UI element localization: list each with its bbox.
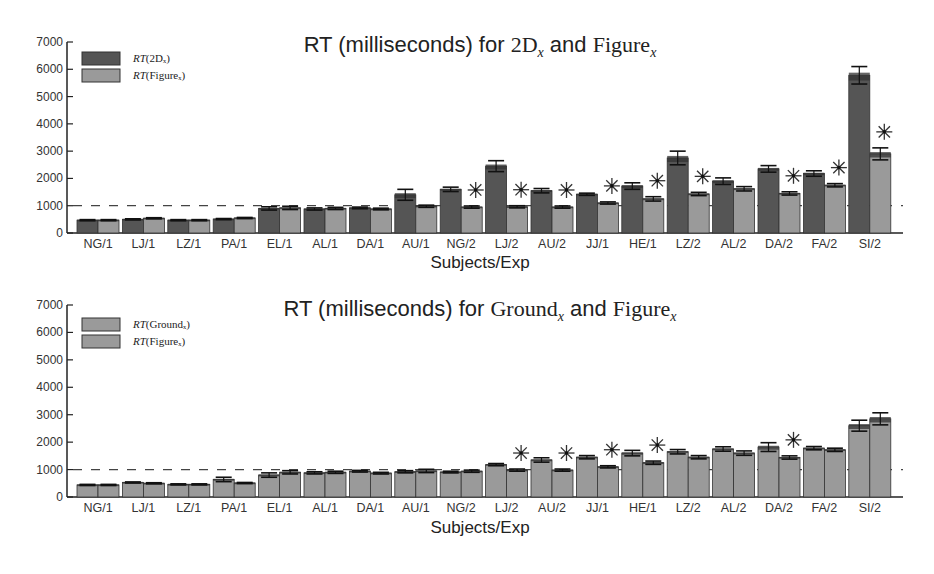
bar: [416, 206, 437, 233]
bar: [824, 450, 845, 497]
bar-group: [486, 464, 528, 497]
x-tick-label: LZ/2: [676, 237, 701, 251]
significance-asterisk-icon: [649, 173, 665, 189]
x-tick-label: LJ/1: [132, 237, 156, 251]
y-tick-label: 2000: [36, 171, 63, 185]
bar: [552, 470, 573, 497]
bar-group: [667, 450, 709, 497]
bar: [280, 472, 301, 497]
y-tick-label: 4000: [36, 117, 63, 131]
chart-title: RT (milliseconds) for Groundx and Figure…: [283, 296, 677, 324]
bar: [416, 471, 437, 497]
bar-group: [849, 67, 891, 233]
significance-asterisk-icon: [604, 442, 620, 458]
bar: [440, 189, 461, 233]
significance-asterisk-icon: [786, 168, 802, 184]
chart-2d-vs-figure: RT (milliseconds) for 2Dx and Figurex010…: [0, 0, 934, 272]
bar-group: [667, 151, 709, 233]
bar: [713, 181, 734, 233]
bar-group: [758, 443, 800, 497]
significance-asterisk-icon: [649, 437, 665, 453]
bar: [597, 203, 618, 233]
bar: [758, 169, 779, 233]
x-tick-label: AU/2: [538, 237, 566, 251]
bar: [461, 471, 482, 497]
significance-asterisk-icon: [604, 178, 620, 194]
bar: [395, 472, 416, 497]
x-tick-label: JJ/1: [586, 237, 609, 251]
y-tick-label: 3000: [36, 144, 63, 158]
bar: [77, 220, 98, 233]
bar-group: [259, 471, 301, 497]
x-tick-label: NG/1: [83, 237, 112, 251]
bar: [486, 166, 507, 233]
significance-asterisk-icon: [559, 445, 575, 461]
significance-asterisk-icon: [695, 168, 711, 184]
bar: [122, 219, 143, 233]
x-tick-label: LJ/2: [495, 501, 519, 515]
bar: [461, 207, 482, 233]
bar-group: [849, 413, 891, 497]
bar: [734, 189, 755, 233]
y-tick-label: 7000: [36, 298, 63, 312]
x-tick-label: JJ/1: [586, 501, 609, 515]
bar-group: [531, 458, 573, 497]
x-tick-label: LZ/1: [176, 501, 201, 515]
x-tick-label: LJ/1: [132, 501, 156, 515]
x-tick-label: NG/2: [447, 501, 476, 515]
chart-ground-vs-figure: RT (milliseconds) for Groundx and Figure…: [0, 264, 934, 574]
bar: [667, 158, 688, 233]
bar: [713, 449, 734, 497]
legend-label: RT(Figureₓ): [132, 69, 185, 82]
bar: [304, 473, 325, 497]
x-tick-label: EL/1: [267, 501, 293, 515]
bar-group: [713, 178, 755, 233]
x-tick-label: LZ/1: [176, 237, 201, 251]
bar: [507, 470, 528, 497]
bar: [259, 208, 280, 233]
bar: [349, 471, 370, 497]
bar: [734, 453, 755, 497]
bar-group: [77, 220, 119, 233]
y-tick-label: 3000: [36, 408, 63, 422]
x-tick-label: AL/2: [721, 237, 747, 251]
bar: [688, 194, 709, 233]
bar: [213, 219, 234, 233]
bar: [325, 208, 346, 233]
y-tick-label: 4000: [36, 380, 63, 394]
bar: [234, 218, 255, 233]
bar: [98, 485, 119, 497]
bar: [370, 209, 391, 233]
y-tick-label: 1000: [36, 463, 63, 477]
bar: [667, 452, 688, 497]
x-tick-label: FA/2: [812, 237, 838, 251]
significance-asterisk-icon: [786, 432, 802, 448]
significance-asterisk-icon: [513, 445, 529, 461]
bar: [576, 194, 597, 233]
chart-title: RT (milliseconds) for 2Dx and Figurex: [304, 32, 658, 60]
legend-swatch: [82, 69, 120, 82]
x-tick-label: SI/2: [859, 237, 881, 251]
bar: [370, 473, 391, 497]
x-tick-label: NG/1: [83, 501, 112, 515]
bar: [507, 207, 528, 233]
x-tick-label: PA/1: [221, 501, 247, 515]
bar: [77, 485, 98, 497]
y-tick-label: 0: [56, 490, 63, 504]
y-tick-label: 0: [56, 226, 63, 240]
bar: [486, 465, 507, 497]
bar-group: [622, 183, 664, 233]
bar: [576, 457, 597, 497]
bar: [304, 209, 325, 233]
bar-group: [77, 484, 119, 497]
bar: [803, 448, 824, 497]
bar-group: [622, 450, 664, 497]
bar-group: [349, 207, 391, 233]
bar: [234, 483, 255, 497]
x-tick-label: EL/1: [267, 237, 293, 251]
x-tick-label: DA/1: [357, 501, 385, 515]
x-tick-label: PA/1: [221, 237, 247, 251]
significance-asterisk-icon: [831, 160, 847, 176]
bar-group: [395, 189, 437, 233]
significance-asterisk-icon: [876, 124, 892, 140]
